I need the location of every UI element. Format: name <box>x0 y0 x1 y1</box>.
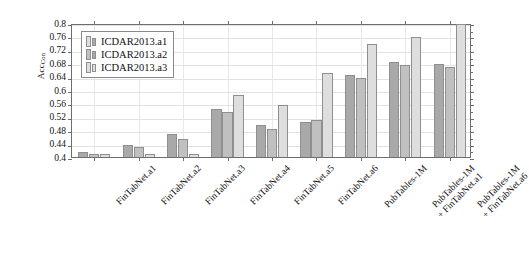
bar <box>256 125 266 157</box>
x-tick-label: FinTabNet.a3 <box>203 163 247 207</box>
y-minor-tick-mark <box>470 59 473 60</box>
x-tick-mark <box>94 157 95 161</box>
legend-swatch-pair <box>86 62 96 73</box>
y-tick-mark <box>470 25 474 26</box>
y-tick-label: 0.68 <box>32 59 66 69</box>
y-minor-tick-mark <box>470 126 473 127</box>
y-tick-mark <box>470 159 474 160</box>
y-minor-tick-mark <box>470 152 473 153</box>
y-minor-tick-mark <box>470 45 473 46</box>
x-tick-mark <box>228 157 229 161</box>
legend-swatch-light-icon <box>86 36 91 47</box>
x-tick-label: FinTabNet.a4 <box>248 163 292 207</box>
y-minor-tick-mark <box>470 139 473 140</box>
legend-item-label: ICDAR2013.a2 <box>101 49 167 61</box>
x-tick-label-line: PubTables-1M <box>382 163 429 210</box>
y-tick-mark <box>470 119 474 120</box>
bar <box>123 145 133 157</box>
x-tick-label: PubTables-1M+ FinTabNet.a1 <box>428 163 485 220</box>
x-tick-label-line: FinTabNet.a4 <box>248 163 292 207</box>
x-tick-mark <box>139 157 140 161</box>
legend-swatch-light-icon <box>86 49 91 60</box>
y-minor-tick-mark <box>470 85 473 86</box>
bar <box>356 78 366 157</box>
bar <box>189 154 199 157</box>
y-tick-mark <box>470 105 474 106</box>
legend-item: ICDAR2013.a3 <box>86 61 167 74</box>
x-tick-label-line: FinTabNet.a3 <box>203 163 247 207</box>
y-tick-mark <box>470 65 474 66</box>
bar <box>211 109 221 157</box>
legend-item-label: ICDAR2013.a3 <box>101 62 167 74</box>
x-tick-label-line: FinTabNet.a5 <box>292 163 336 207</box>
y-tick-mark <box>470 79 474 80</box>
bar <box>434 64 444 157</box>
x-tick-mark <box>450 157 451 161</box>
legend: ICDAR2013.a1 ICDAR2013.a2 ICDAR2013.a3 <box>81 31 174 78</box>
legend-swatch-light-icon <box>86 62 91 73</box>
legend-item: ICDAR2013.a1 <box>86 35 167 48</box>
x-tick-label: FinTabNet.a1 <box>114 163 158 207</box>
bar <box>345 75 355 157</box>
plot-area: ICDAR2013.a1 ICDAR2013.a2 ICDAR2013.a3 <box>71 24 471 158</box>
bar <box>267 129 277 157</box>
x-tick-label: FinTabNet.a2 <box>159 163 203 207</box>
bar <box>456 24 466 157</box>
legend-swatch-dark-icon <box>92 64 96 72</box>
x-tick-label: FinTabNet.a5 <box>292 163 336 207</box>
y-tick-label: 0.64 <box>32 72 66 82</box>
bar <box>233 95 243 157</box>
bar <box>400 65 410 157</box>
y-minor-tick-mark <box>470 72 473 73</box>
bar <box>311 120 321 157</box>
bar <box>100 154 110 157</box>
bar <box>222 112 232 157</box>
legend-item-label: ICDAR2013.a1 <box>101 36 167 48</box>
bar <box>145 154 155 157</box>
bar <box>300 122 310 157</box>
y-tick-label: 0.44 <box>32 139 66 149</box>
x-tick-label: FinTabNet.a6 <box>337 163 381 207</box>
y-tick-mark <box>470 52 474 53</box>
x-tick-mark <box>183 157 184 161</box>
y-tick-mark <box>470 146 474 147</box>
bar <box>389 62 399 157</box>
bar <box>445 67 455 157</box>
bar <box>167 134 177 157</box>
x-tick-label-line: FinTabNet.a2 <box>159 163 203 207</box>
bar <box>367 44 377 157</box>
y-minor-tick-mark <box>470 112 473 113</box>
legend-swatch-pair <box>86 36 96 47</box>
x-tick-mark <box>405 157 406 161</box>
bar <box>78 152 88 157</box>
y-tick-label: 0.48 <box>32 126 66 136</box>
bar <box>411 37 421 157</box>
y-minor-tick-mark <box>470 99 473 100</box>
y-tick-label: 0.8 <box>32 19 66 29</box>
legend-item: ICDAR2013.a2 <box>86 48 167 61</box>
y-tick-mark <box>470 92 474 93</box>
y-tick-label: 0.4 <box>32 153 66 163</box>
y-tick-label: 0.72 <box>32 45 66 55</box>
y-tick-label: 0.76 <box>32 32 66 42</box>
x-tick-mark <box>316 157 317 161</box>
legend-swatch-dark-icon <box>92 51 96 59</box>
bar <box>89 154 99 157</box>
bar <box>278 105 288 157</box>
x-tick-label: PubTables-1M <box>382 163 429 210</box>
legend-swatch-pair <box>86 49 96 60</box>
x-tick-label: PubTables-1M+ FinTabNet.a6 <box>472 163 529 220</box>
y-tick-mark <box>68 159 72 160</box>
bar <box>134 147 144 157</box>
x-tick-mark <box>361 157 362 161</box>
y-tick-label: 0.6 <box>32 86 66 96</box>
bar <box>322 73 332 157</box>
y-minor-tick-mark <box>470 32 473 33</box>
legend-swatch-dark-icon <box>92 38 96 46</box>
bar <box>178 139 188 157</box>
x-tick-mark <box>272 157 273 161</box>
y-tick-mark <box>470 38 474 39</box>
y-tick-label: 0.56 <box>32 99 66 109</box>
x-tick-label-line: FinTabNet.a6 <box>337 163 381 207</box>
